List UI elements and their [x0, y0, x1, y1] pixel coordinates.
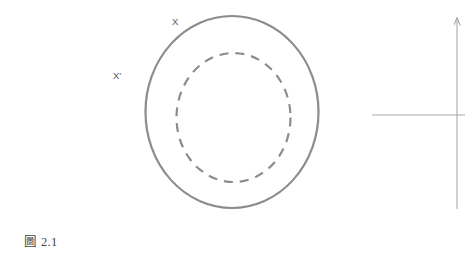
- axes-diagram-canvas: [232, 0, 465, 261]
- figure-2-1-caption: 圖 2.1: [24, 231, 58, 250]
- figure-2-2-panel: Y X 圖 2.2: [232, 0, 465, 261]
- inner-set-label: X': [113, 70, 121, 81]
- figure-2-1-panel: X X' 圖 2.1: [0, 0, 232, 261]
- outer-set-label: X: [172, 16, 178, 27]
